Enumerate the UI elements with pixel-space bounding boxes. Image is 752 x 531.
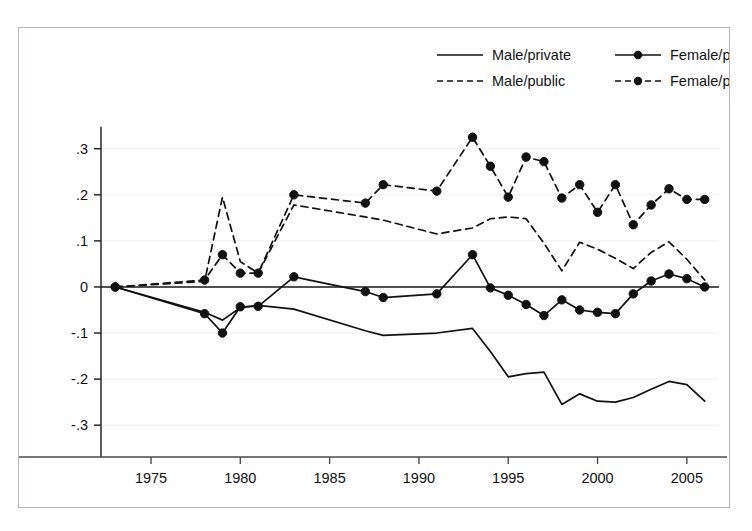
data-point-marker [361,199,369,207]
data-point-marker [522,153,530,161]
data-point-marker [486,284,494,292]
data-point-marker [665,270,673,278]
x-axis: 1975198019851990199520002005 [19,457,727,486]
x-tick-label: 2005 [671,470,703,486]
data-point-marker [575,306,583,314]
data-point-marker [236,269,244,277]
x-tick-label: 2000 [581,470,613,486]
y-tick-label: -.2 [71,371,88,387]
data-point-marker [504,291,512,299]
data-point-marker [218,329,226,337]
data-point-marker [575,180,583,188]
x-tick-label: 1990 [403,470,435,486]
y-tick-label: .2 [76,187,88,203]
x-tick-label: 1995 [492,470,524,486]
data-point-marker [361,287,369,295]
data-point-marker [254,302,262,310]
x-tick-label: 1985 [313,470,345,486]
chart-frame: .3.2.10-.1-.2-.3 19751980198519901995200… [18,27,730,508]
legend-label: Female/private [670,47,729,63]
data-point-marker [683,195,691,203]
data-point-marker [540,311,548,319]
data-point-marker [540,157,548,165]
series-layer [111,133,709,404]
legend-marker-sample [634,77,642,85]
y-tick-label: -.1 [71,325,88,341]
data-point-marker [558,296,566,304]
series-line [115,255,704,333]
data-point-marker [701,195,709,203]
data-point-marker [254,269,262,277]
data-point-marker [593,208,601,216]
data-point-marker [593,308,601,316]
series-line [115,137,704,287]
data-point-marker [218,251,226,259]
data-point-marker [647,277,655,285]
data-point-marker [236,303,244,311]
data-point-marker [647,201,655,209]
data-point-marker [611,180,619,188]
legend-label: Female/public [670,73,729,89]
y-axis: .3.2.10-.1-.2-.3 [71,127,101,457]
data-point-marker [611,309,619,317]
line-chart: .3.2.10-.1-.2-.3 19751980198519901995200… [19,28,729,507]
data-point-marker [290,191,298,199]
data-point-marker [468,251,476,259]
y-tick-label: -.3 [71,417,88,433]
x-tick-label: 1980 [224,470,256,486]
data-point-marker [468,133,476,141]
data-point-marker [629,290,637,298]
data-point-marker [504,193,512,201]
data-point-marker [522,300,530,308]
data-point-marker [665,185,673,193]
data-point-marker [200,276,208,284]
y-tick-label: .3 [76,141,88,157]
data-point-marker [629,221,637,229]
legend-label: Male/public [492,73,565,89]
data-point-marker [379,180,387,188]
y-tick-label: 0 [80,279,88,295]
data-point-marker [379,293,387,301]
legend-marker-sample [634,51,642,59]
y-tick-label: .1 [76,233,88,249]
data-point-marker [701,283,709,291]
data-point-marker [683,274,691,282]
data-point-marker [290,273,298,281]
series-line [115,287,704,404]
data-point-marker [200,309,208,317]
data-point-marker [433,187,441,195]
chart-legend: Male/privateFemale/privateMale/publicFem… [437,47,729,89]
data-point-marker [558,194,566,202]
series-line [115,197,704,287]
x-tick-label: 1975 [135,470,167,486]
data-point-marker [111,283,119,291]
legend-label: Male/private [492,47,571,63]
data-point-marker [486,162,494,170]
data-point-marker [433,290,441,298]
figure-root: .3.2.10-.1-.2-.3 19751980198519901995200… [0,0,752,531]
